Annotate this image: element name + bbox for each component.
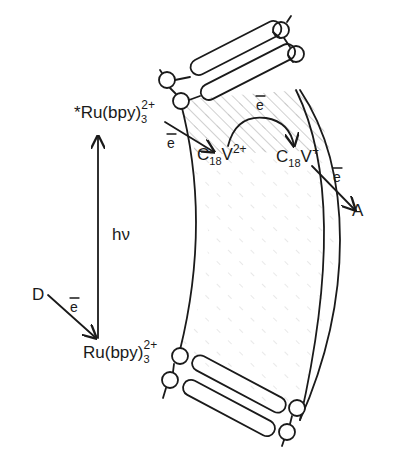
svg-text:e: e: [256, 97, 264, 113]
light-hv-label: hν: [112, 225, 130, 244]
svg-text:e: e: [70, 299, 78, 315]
electron-transfer-diagram: *Ru(bpy)32+ Ru(bpy)32+ C18V2+ C18V+ D A …: [0, 0, 393, 472]
excited-sensitizer-label: *Ru(bpy)32+: [74, 98, 155, 125]
electron-label-transmembrane: e: [256, 96, 265, 113]
acceptor-label: A: [352, 201, 364, 220]
svg-text:*Ru(bpy)32+: *Ru(bpy)32+: [74, 98, 155, 125]
svg-text:Ru(bpy)32+: Ru(bpy)32+: [83, 338, 157, 365]
ground-sensitizer-label: Ru(bpy)32+: [83, 338, 157, 365]
electron-label-donor: e: [70, 298, 79, 315]
electron-label-injection: e: [167, 134, 176, 151]
donor-label: D: [32, 285, 44, 304]
electron-label-acceptor: e: [333, 168, 342, 185]
svg-text:e: e: [333, 169, 341, 185]
svg-text:e: e: [167, 135, 175, 151]
